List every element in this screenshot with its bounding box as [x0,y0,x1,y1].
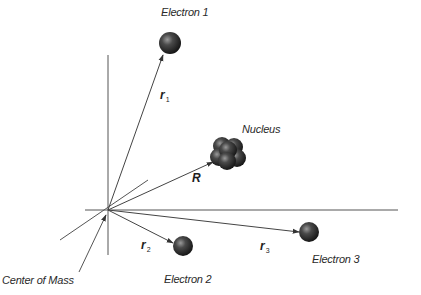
nucleus-label: Nucleus [242,123,280,135]
electron-2-label: Electron 2 [164,273,212,285]
vector-r3-label: r3 [260,239,270,254]
diagram-canvas: Electron 1 Nucleus Electron 2 Electron 3… [0,0,421,295]
vector-R-label: R [192,171,201,185]
vector-r1 [108,55,163,210]
electron-3-label: Electron 3 [312,253,360,265]
position-vectors [108,55,299,243]
vector-r1-label: r1 [160,88,170,103]
center-of-mass-label: Center of Mass [2,274,74,286]
vector-R [108,162,213,210]
electron-3-particle [299,222,319,242]
vector-r2-label: r2 [141,238,151,253]
nucleus-particle [210,137,246,170]
electron-1-particle [159,32,181,54]
electron-1-label: Electron 1 [161,6,209,18]
electron-2-particle [173,236,193,256]
center-of-mass-pointer [79,215,106,272]
vector-r3 [108,210,299,232]
diagram-graphics [0,0,421,295]
